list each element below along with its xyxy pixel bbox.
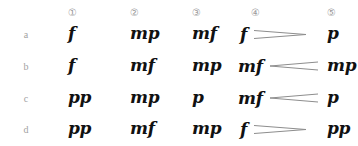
row-label-d: d [18,124,34,135]
row-label-c: c [18,93,34,104]
row-label-b: b [18,61,34,72]
dynamic-marking: mf [238,89,263,107]
dynamic-marking: f [240,120,247,138]
crescendo-hairpin-icon [270,92,318,104]
diminuendo-hairpin-icon [254,123,306,135]
crescendo-hairpin-icon [270,60,318,72]
dynamics-table: ① ② ③ ④ ⑤ a f mp mf f p b f mf mp mf mp … [0,0,358,146]
dynamic-marking: f [240,25,247,43]
diminuendo-hairpin-icon [254,28,306,40]
dynamic-marking: mf [238,57,263,75]
row-label-a: a [18,29,34,40]
